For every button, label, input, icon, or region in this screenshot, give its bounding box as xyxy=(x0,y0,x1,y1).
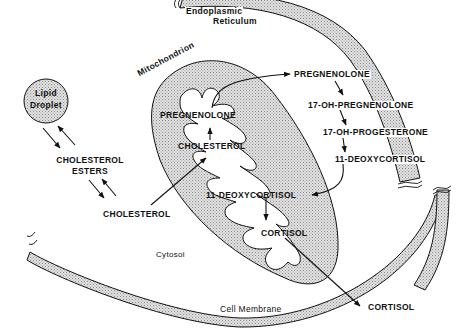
17oh-pregnenolone-label: 17-OH-PREGNENOLONE xyxy=(307,101,415,110)
cortisol-mito-label: CORTISOL xyxy=(261,229,307,238)
arrows-esters-cholesterol xyxy=(89,179,116,198)
arrow-17ohpreg-17ohprog xyxy=(340,110,346,125)
lipid-droplet-label-1: Lipid xyxy=(33,89,59,98)
cholesterol-esters-label-1: CHOLESTEROL xyxy=(54,156,126,165)
cholesterol-esters-label-2: ESTERS xyxy=(54,167,126,176)
cortisol-out-label: CORTISOL xyxy=(368,303,414,312)
cholesterol-mito-label: CHOLESTEROL xyxy=(178,142,246,151)
17oh-progesterone-label: 17-OH-PROGESTERONE xyxy=(322,128,429,137)
cell-membrane-label: Cell Membrane xyxy=(219,305,283,314)
er-label-line1: Endoplasmic xyxy=(185,7,243,16)
er-label-line2: Reticulum xyxy=(212,17,258,26)
cytosol-label: Cytosol xyxy=(156,251,185,259)
arrow-preg-17ohpreg xyxy=(335,81,343,95)
pregnenolone-mito-label: PREGNENOLONE xyxy=(160,111,236,120)
pregnenolone-er-label: PREGNENOLONE xyxy=(293,70,371,79)
arrow-17ohprog-11deoxy xyxy=(343,138,345,152)
arrows-droplet-esters xyxy=(43,126,75,148)
lipid-droplet-label-2: Droplet xyxy=(27,101,65,110)
11-deoxycortisol-er-label: 11-DEOXYCORTISOL xyxy=(334,155,426,164)
11-deoxycortisol-mito-label: 11-DEOXYCORTISOL xyxy=(206,191,296,200)
cholesterol-cytosol-label: CHOLESTEROL xyxy=(103,210,171,219)
